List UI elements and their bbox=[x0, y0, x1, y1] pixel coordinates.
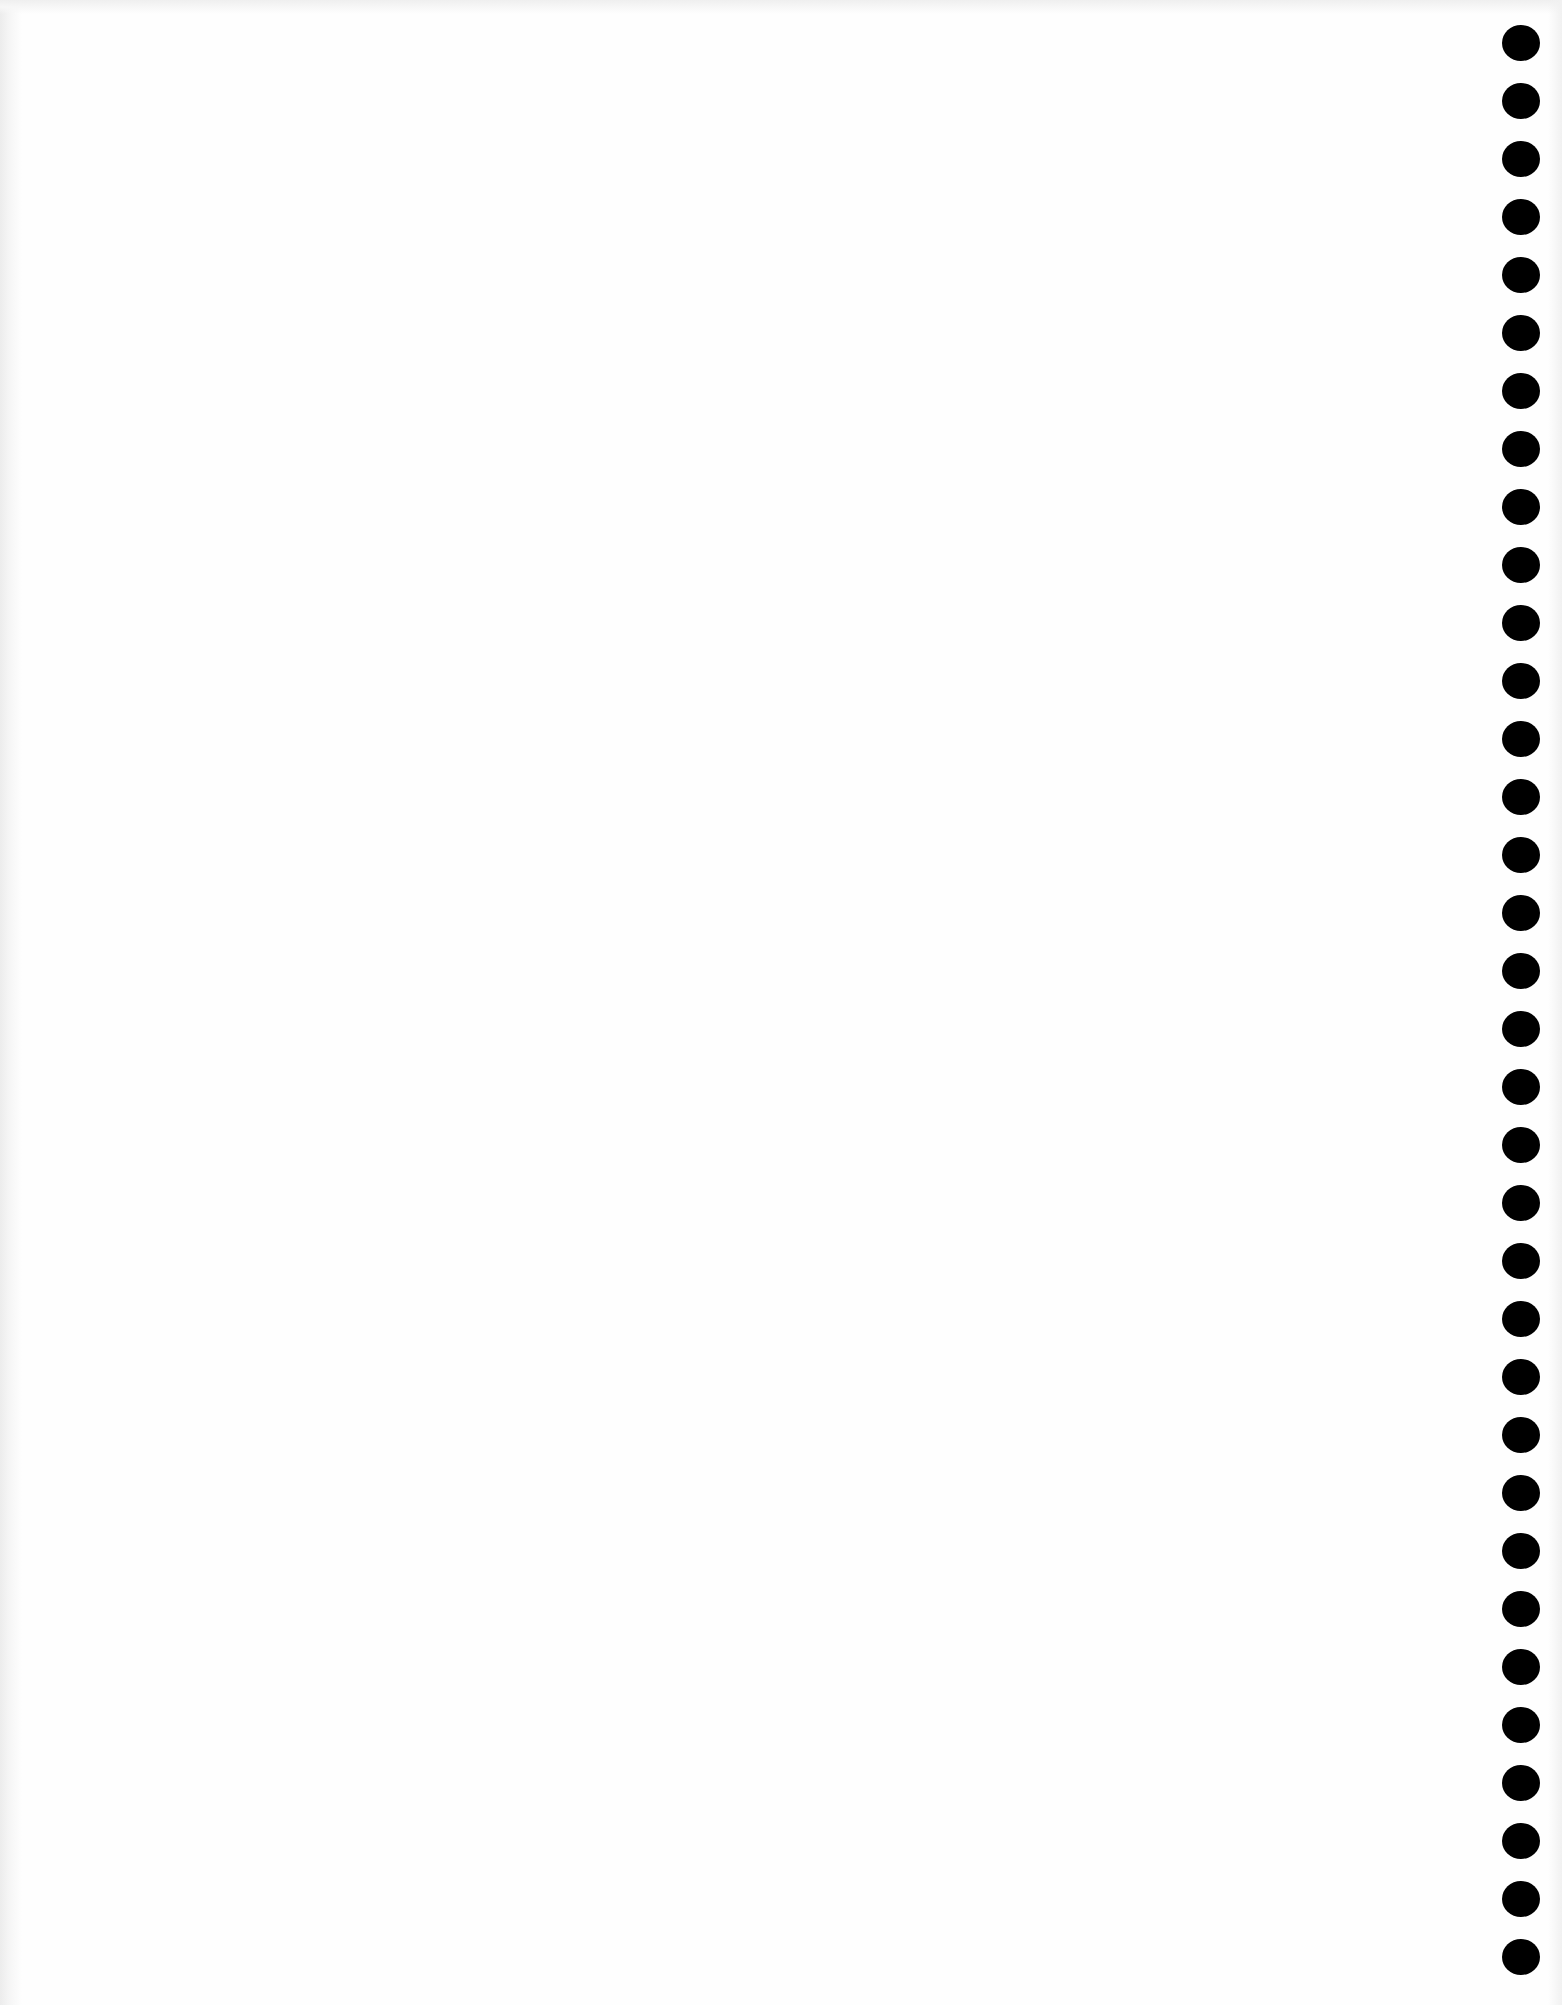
punch-hole bbox=[1502, 315, 1540, 351]
punch-hole bbox=[1502, 199, 1540, 235]
punch-hole bbox=[1502, 1301, 1540, 1337]
scanner-edge-right bbox=[1548, 0, 1562, 2005]
punch-hole bbox=[1502, 1939, 1540, 1975]
scanned-page bbox=[0, 0, 1562, 2005]
punch-hole bbox=[1502, 1765, 1540, 1801]
punch-hole bbox=[1502, 1243, 1540, 1279]
punch-hole bbox=[1502, 1823, 1540, 1859]
punch-hole bbox=[1502, 1011, 1540, 1047]
punch-hole bbox=[1502, 1881, 1540, 1917]
punch-hole bbox=[1502, 837, 1540, 873]
binder-punch-holes bbox=[1502, 0, 1542, 2005]
punch-hole bbox=[1502, 1185, 1540, 1221]
punch-hole bbox=[1502, 1417, 1540, 1453]
punch-hole bbox=[1502, 1649, 1540, 1685]
punch-hole bbox=[1502, 1591, 1540, 1627]
scanner-edge-top bbox=[0, 0, 1562, 14]
punch-hole bbox=[1502, 489, 1540, 525]
punch-hole bbox=[1502, 1707, 1540, 1743]
punch-hole bbox=[1502, 373, 1540, 409]
punch-hole bbox=[1502, 721, 1540, 757]
punch-hole bbox=[1502, 895, 1540, 931]
punch-hole bbox=[1502, 663, 1540, 699]
punch-hole bbox=[1502, 1533, 1540, 1569]
punch-hole bbox=[1502, 1127, 1540, 1163]
punch-hole bbox=[1502, 1359, 1540, 1395]
punch-hole bbox=[1502, 1069, 1540, 1105]
punch-hole bbox=[1502, 605, 1540, 641]
punch-hole bbox=[1502, 547, 1540, 583]
punch-hole bbox=[1502, 431, 1540, 467]
punch-hole bbox=[1502, 25, 1540, 61]
punch-hole bbox=[1502, 953, 1540, 989]
punch-hole bbox=[1502, 779, 1540, 815]
punch-hole bbox=[1502, 1475, 1540, 1511]
punch-hole bbox=[1502, 257, 1540, 293]
scanner-edge-left bbox=[0, 0, 22, 2005]
punch-hole bbox=[1502, 83, 1540, 119]
punch-hole bbox=[1502, 141, 1540, 177]
